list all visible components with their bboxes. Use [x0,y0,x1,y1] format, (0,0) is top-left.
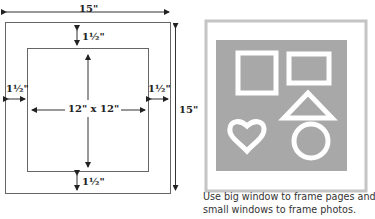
bottom-margin-label: 1½" [82,176,105,187]
top-margin-label: 1½" [82,31,105,42]
outer-width-label: 15" [79,3,98,14]
caption-line-1: Use big window to frame pages and [203,191,375,204]
mat-windows-illustration [200,15,375,195]
right-margin-label: 1½" [148,83,171,94]
caption: Use big window to frame pages and small … [203,191,375,216]
window-size-label: 12" x 12" [66,103,121,114]
outer-height-label: 15" [179,104,198,115]
left-margin-label: 1½" [6,83,29,94]
caption-line-2: small windows to frame photos. [203,204,375,217]
